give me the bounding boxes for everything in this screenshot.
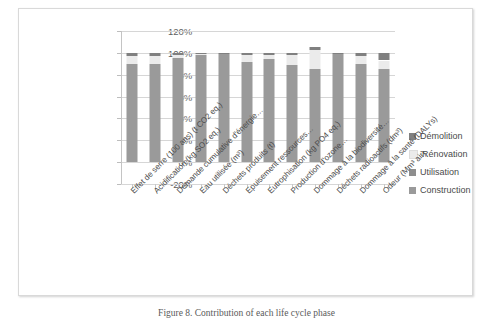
bar-segment-construction — [332, 54, 343, 162]
stacked-bar[interactable] — [378, 31, 389, 184]
x-tick-mark — [338, 184, 339, 188]
bar-slot — [349, 31, 372, 184]
bar-segment-rnovation — [310, 50, 321, 70]
stacked-bar[interactable] — [241, 31, 252, 184]
x-tick-mark — [247, 184, 248, 188]
x-tick-mark — [155, 184, 156, 188]
plot-inner — [121, 31, 395, 184]
bar-segment-construction — [218, 54, 229, 162]
figure-caption: Figure 8. Contribution of each life cycl… — [0, 308, 493, 318]
x-tick-mark — [269, 184, 270, 188]
bar-segment-construction — [173, 58, 184, 162]
legend-swatch-icon — [409, 169, 416, 176]
stacked-bar[interactable] — [310, 31, 321, 184]
stacked-bar[interactable] — [287, 31, 298, 184]
bar-segment-rnovation — [264, 55, 275, 59]
bar-segment-rnovation — [150, 56, 161, 64]
bar-segment-dmolition — [332, 53, 343, 54]
bar-segment-dmolition — [218, 53, 229, 54]
bar-segment-construction — [310, 69, 321, 162]
bar-segment-dmolition — [127, 53, 138, 56]
stacked-bar[interactable] — [173, 31, 184, 184]
bar-slot — [190, 31, 213, 184]
x-tick-mark — [361, 184, 362, 188]
bar-segment-construction — [241, 62, 252, 163]
bar-slot — [144, 31, 167, 184]
bar-segment-rnovation — [173, 55, 184, 58]
stacked-bar[interactable] — [355, 31, 366, 184]
legend-item[interactable]: Construction — [409, 181, 489, 199]
legend-item-label: Utilisation — [420, 167, 459, 177]
bar-segment-construction — [355, 64, 366, 162]
legend-item-label: Construction — [420, 185, 471, 195]
legend-item[interactable]: Rénovation — [409, 145, 489, 163]
gridline — [121, 184, 395, 185]
bar-slot — [281, 31, 304, 184]
x-tick-mark — [178, 184, 179, 188]
legend-item[interactable]: Démolition — [409, 127, 489, 145]
bar-segment-dmolition — [195, 53, 206, 54]
bar-segment-construction — [287, 65, 298, 162]
legend-swatch-icon — [409, 150, 418, 159]
bar-slot — [121, 31, 144, 184]
stacked-bar[interactable] — [150, 31, 161, 184]
bar-segment-rnovation — [378, 61, 389, 70]
legend-swatch-icon — [409, 133, 416, 140]
bar-segment-construction — [150, 64, 161, 162]
bar-segment-rnovation — [127, 56, 138, 64]
stacked-bar[interactable] — [195, 31, 206, 184]
bar-segment-dmolition — [150, 53, 161, 56]
bar-slot — [258, 31, 281, 184]
bar-segment-dmolition — [378, 53, 389, 61]
stacked-bar[interactable] — [332, 31, 343, 184]
stacked-bar[interactable] — [264, 31, 275, 184]
bar-segment-construction — [264, 59, 275, 162]
bar-segment-dmolition — [310, 47, 321, 49]
x-tick-mark — [224, 184, 225, 188]
legend-item-label: Rénovation — [422, 149, 468, 159]
stacked-bar[interactable] — [218, 31, 229, 184]
legend-swatch-icon — [409, 187, 416, 194]
bar-segment-dmolition — [241, 53, 252, 55]
legend-item-label: Démolition — [420, 131, 463, 141]
x-tick-mark — [292, 184, 293, 188]
bar-segment-dmolition — [264, 53, 275, 55]
bar-segment-rnovation — [355, 56, 366, 64]
bar-segment-construction — [378, 69, 389, 162]
x-tick-mark — [201, 184, 202, 188]
bar-slot — [212, 31, 235, 184]
bar-segment-dmolition — [355, 53, 366, 56]
x-tick-mark — [315, 184, 316, 188]
chart-frame: 120%100%80%60%40%20%0%-20% DémolitionRén… — [18, 8, 473, 296]
bar-segment-rnovation — [195, 54, 206, 55]
bar-slot — [372, 31, 395, 184]
bar-slot — [235, 31, 258, 184]
y-tick-mark — [117, 184, 121, 185]
bar-segment-dmolition — [173, 53, 184, 55]
plot-area — [121, 31, 395, 184]
bar-segment-rnovation — [241, 55, 252, 62]
bar-segment-construction — [127, 64, 138, 162]
stacked-bar[interactable] — [127, 31, 138, 184]
bar-segment-construction — [195, 55, 206, 162]
bar-slot — [167, 31, 190, 184]
bar-slot — [304, 31, 327, 184]
bar-slot — [327, 31, 350, 184]
x-tick-mark — [132, 184, 133, 188]
chart-legend: DémolitionRénovationUtilisationConstruct… — [409, 127, 489, 199]
bar-segment-dmolition — [287, 53, 298, 55]
bar-segment-rnovation — [287, 55, 298, 65]
x-tick-mark — [384, 184, 385, 188]
legend-item[interactable]: Utilisation — [409, 163, 489, 181]
